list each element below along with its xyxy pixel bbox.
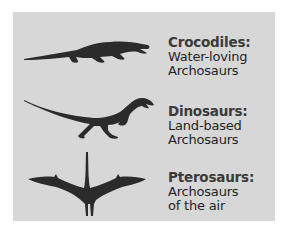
- crocodiles-desc-line1: Water-loving: [168, 50, 250, 65]
- dinosaurs-desc-line1: Land-based: [168, 119, 248, 134]
- dinosaurs-desc-line2: Archosaurs: [168, 133, 248, 148]
- pterosaurs-desc-line1: Archosaurs: [168, 185, 254, 200]
- crocodiles-label: Crocodiles: Water-loving Archosaurs: [168, 35, 250, 79]
- pterosaurs-label: Pterosaurs: Archosaurs of the air: [168, 170, 254, 214]
- crocodiles-desc-line2: Archosaurs: [168, 64, 250, 79]
- pterosaurs-desc-line2: of the air: [168, 199, 254, 214]
- crocodiles-title: Crocodiles:: [168, 35, 250, 50]
- crocodile-silhouette-icon: [22, 36, 152, 66]
- dinosaurs-title: Dinosaurs:: [168, 104, 248, 119]
- dinosaurs-label: Dinosaurs: Land-based Archosaurs: [168, 104, 248, 148]
- dinosaur-silhouette-icon: [24, 96, 156, 140]
- pterosaur-silhouette-icon: [26, 152, 148, 218]
- pterosaurs-title: Pterosaurs:: [168, 170, 254, 185]
